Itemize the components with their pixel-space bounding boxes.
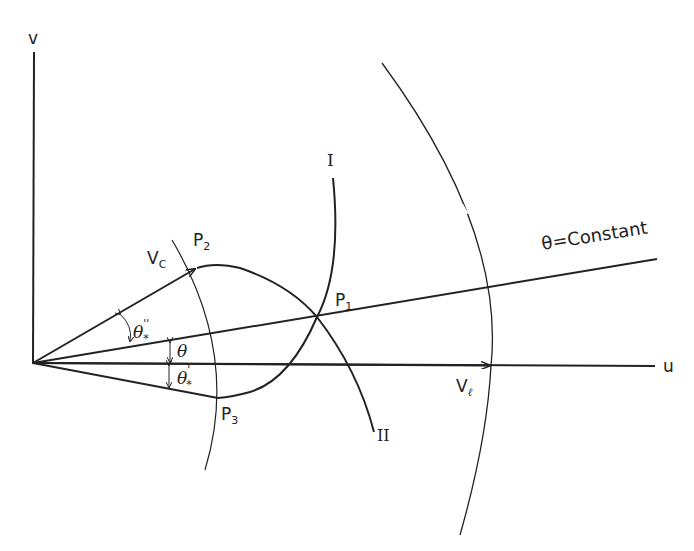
p2-label: P2 [193, 232, 210, 252]
vl-label: Vℓ [456, 378, 472, 398]
curve-I-label: I [327, 152, 334, 169]
vl-circle-arc [382, 63, 492, 535]
theta-star-dprime-label: θ''* [133, 322, 149, 344]
v-axis [33, 52, 34, 364]
theta-label: θ [177, 343, 187, 360]
vc-label: VC [147, 250, 166, 270]
p1-label: P1 [335, 292, 352, 312]
theta-star-dprime-arc [120, 314, 131, 341]
theta-star-prime-label: θ'* [177, 368, 192, 390]
vl-vector [33, 363, 490, 366]
diagram-canvas [0, 0, 694, 551]
u-axis-label: u [663, 358, 674, 375]
p3-label: P3 [221, 406, 238, 426]
v-axis-label: v [28, 30, 38, 47]
curve-II-label: II [377, 428, 390, 444]
